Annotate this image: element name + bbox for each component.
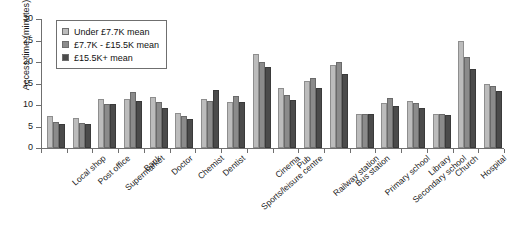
bar	[110, 104, 116, 148]
x-tick	[375, 149, 376, 153]
y-tick-25: 25	[36, 41, 41, 42]
legend-swatch-icon	[62, 28, 69, 35]
bar	[162, 108, 168, 148]
bar	[342, 74, 348, 148]
bar	[368, 114, 374, 148]
bar-group	[175, 19, 193, 148]
y-axis-line	[41, 19, 42, 149]
x-tick	[298, 149, 299, 153]
legend-label: £15.5K+ mean	[74, 53, 133, 63]
legend-swatch-icon	[62, 41, 69, 48]
chart-legend: Under £7.7K mean£7.7K - £15.5K mean£15.5…	[56, 20, 167, 69]
bar	[496, 91, 502, 148]
bar	[470, 69, 476, 148]
x-tick	[170, 149, 171, 153]
bar	[85, 124, 91, 148]
bar	[445, 115, 451, 148]
x-tick	[427, 149, 428, 153]
y-tick-30: 30	[36, 19, 41, 20]
x-axis-label: Doctor	[169, 153, 194, 177]
bar-group	[253, 19, 271, 148]
y-tick-20: 20	[36, 62, 41, 63]
y-tick-label: 0	[28, 142, 33, 152]
bar-group	[356, 19, 374, 148]
bar-group	[458, 19, 476, 148]
x-tick	[195, 149, 196, 153]
x-tick	[67, 149, 68, 153]
bar	[213, 90, 219, 148]
bar-group	[407, 19, 425, 148]
x-tick	[92, 149, 93, 153]
x-axis-label: Hospital	[479, 153, 509, 181]
x-tick	[273, 149, 274, 153]
x-tick	[118, 149, 119, 153]
bar-group	[330, 19, 348, 148]
y-tick-label: 5	[28, 121, 33, 131]
bar	[187, 119, 193, 148]
x-tick	[478, 149, 479, 153]
bar	[290, 100, 296, 148]
y-tick-15: 15	[36, 84, 41, 85]
y-tick-label: 10	[23, 99, 33, 109]
x-tick	[144, 149, 145, 153]
y-tick-label: 25	[23, 35, 33, 45]
bar	[393, 106, 399, 148]
x-tick	[401, 149, 402, 153]
bar	[59, 124, 65, 148]
legend-label: Under £7.7K mean	[74, 27, 150, 37]
bar-group	[484, 19, 502, 148]
bar-group	[304, 19, 322, 148]
bar-group	[381, 19, 399, 148]
x-tick	[504, 149, 505, 153]
legend-item: £15.5K+ mean	[62, 51, 159, 64]
bar	[419, 108, 425, 148]
y-tick-label: 20	[23, 56, 33, 66]
bar-chart-figure: Access time (minutes) 051015202530 Local…	[0, 0, 509, 247]
x-tick	[41, 149, 42, 153]
legend-label: £7.7K - £15.5K mean	[74, 40, 159, 50]
bar-group	[227, 19, 245, 148]
bar-group	[278, 19, 296, 148]
y-tick-10: 10	[36, 105, 41, 106]
bar-group	[201, 19, 219, 148]
x-axis-label: Chemist	[196, 153, 226, 181]
x-tick	[221, 149, 222, 153]
legend-item: £7.7K - £15.5K mean	[62, 38, 159, 51]
y-tick-5: 5	[36, 127, 41, 128]
x-tick	[324, 149, 325, 153]
bar	[316, 88, 322, 148]
bar	[265, 67, 271, 148]
x-tick	[350, 149, 351, 153]
x-tick	[247, 149, 248, 153]
x-tick	[453, 149, 454, 153]
y-tick-label: 30	[23, 13, 33, 23]
legend-swatch-icon	[62, 54, 69, 61]
legend-item: Under £7.7K mean	[62, 25, 159, 38]
bar	[136, 101, 142, 148]
y-tick-label: 15	[23, 78, 33, 88]
x-axis-label: Dentist	[221, 153, 248, 178]
bar	[239, 102, 245, 148]
bar-group	[433, 19, 451, 148]
